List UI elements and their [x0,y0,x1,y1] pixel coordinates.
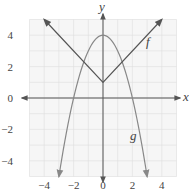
svg-text:4: 4 [159,179,165,191]
svg-text:2: 2 [130,179,136,191]
x-tick-labels: −4−2024 [38,179,165,191]
svg-text:−2: −2 [1,123,13,135]
function-graph: y x 420−2−4 −4−2024 f g [0,0,189,192]
label-g: g [130,128,137,143]
svg-text:2: 2 [8,61,14,73]
svg-text:−2: −2 [68,179,80,191]
svg-text:0: 0 [100,179,106,191]
svg-text:4: 4 [8,29,14,41]
svg-text:0: 0 [8,92,14,104]
y-tick-labels: 420−2−4 [1,29,13,167]
y-axis-label: y [97,0,105,14]
svg-text:−4: −4 [38,179,50,191]
x-axis-label: x [182,89,189,104]
svg-text:−4: −4 [1,155,13,167]
